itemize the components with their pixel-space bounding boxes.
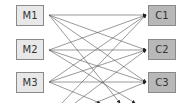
node-c2: C2 [148, 39, 176, 60]
node-c1: C1 [148, 5, 176, 26]
node-m1: M1 [16, 5, 44, 26]
node-label: C1 [155, 10, 168, 21]
node-label: M2 [23, 44, 38, 55]
node-label: C3 [155, 77, 168, 88]
node-label: C2 [155, 44, 168, 55]
node-c3: C3 [148, 72, 176, 93]
node-m2: M2 [16, 39, 44, 60]
node-label: M3 [23, 77, 38, 88]
node-label: M1 [23, 10, 38, 21]
node-m3: M3 [16, 72, 44, 93]
